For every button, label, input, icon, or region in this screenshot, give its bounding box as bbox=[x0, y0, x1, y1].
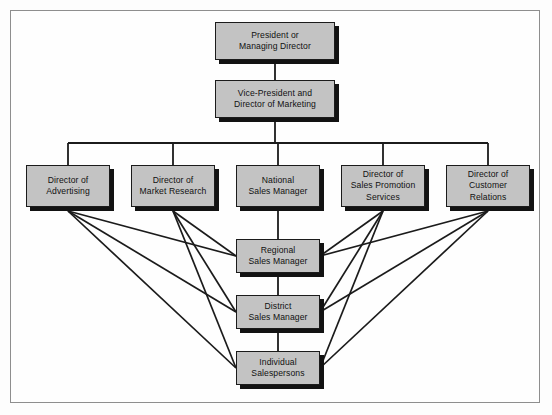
node-individual-salespersons[interactable]: Individual Salespersons bbox=[236, 351, 320, 385]
node-dir-advertising[interactable]: Director of Advertising bbox=[26, 165, 110, 207]
node-label: President or Managing Director bbox=[239, 30, 311, 53]
node-label: Director of Customer Relations bbox=[468, 169, 509, 203]
relation-dir-advertising-to-district-sales-manager bbox=[68, 211, 236, 312]
node-dir-market-research[interactable]: Director of Market Research bbox=[131, 165, 215, 207]
node-dir-sales-promotion[interactable]: Director of Sales Promotion Services bbox=[341, 165, 425, 207]
node-label: Regional Sales Manager bbox=[248, 245, 307, 268]
relation-dir-customer-relations-to-individual-salespersons bbox=[320, 211, 488, 368]
node-national-sales-manager[interactable]: National Sales Manager bbox=[236, 165, 320, 207]
relation-dir-sales-promotion-to-individual-salespersons bbox=[320, 211, 383, 368]
node-vp-marketing[interactable]: Vice-President and Director of Marketing bbox=[215, 80, 335, 118]
node-president[interactable]: President or Managing Director bbox=[215, 22, 335, 60]
node-district-sales-manager[interactable]: District Sales Manager bbox=[236, 295, 320, 329]
node-label: Director of Market Research bbox=[140, 175, 207, 198]
relation-dir-market-research-to-individual-salespersons bbox=[173, 211, 236, 368]
node-label: Vice-President and Director of Marketing bbox=[234, 88, 316, 111]
node-label: Director of Advertising bbox=[46, 175, 90, 198]
node-label: District Sales Manager bbox=[248, 301, 307, 324]
node-dir-customer-relations[interactable]: Director of Customer Relations bbox=[446, 165, 530, 207]
relation-dir-customer-relations-to-district-sales-manager bbox=[320, 211, 488, 312]
node-label: Director of Sales Promotion Services bbox=[351, 169, 416, 203]
node-regional-sales-manager[interactable]: Regional Sales Manager bbox=[236, 239, 320, 273]
node-label: National Sales Manager bbox=[248, 175, 307, 198]
node-label: Individual Salespersons bbox=[251, 357, 304, 380]
relation-dir-advertising-to-individual-salespersons bbox=[68, 211, 236, 368]
relation-dir-market-research-to-district-sales-manager bbox=[173, 211, 236, 312]
org-chart-canvas: President or Managing DirectorVice-Presi… bbox=[0, 0, 552, 415]
relation-dir-sales-promotion-to-district-sales-manager bbox=[320, 211, 383, 312]
